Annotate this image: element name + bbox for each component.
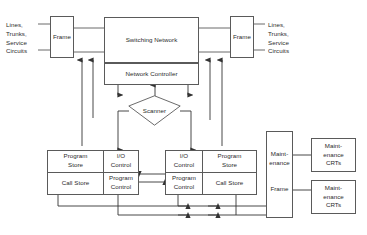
- maintenance-frame: Maint- enance Frame: [266, 131, 293, 218]
- maintenance-crt-top: Maint- enance CRTs: [311, 138, 356, 172]
- scanner: Scanner: [128, 95, 181, 126]
- right-processor-block: I/O Control Program Store Program Contro…: [165, 150, 257, 195]
- maintenance-crt-bottom: Maint- enance CRTs: [311, 180, 356, 214]
- left-io-control: I/O Control: [104, 151, 138, 173]
- left-program-control: Program Control: [104, 173, 138, 195]
- right-io-control: I/O Control: [166, 151, 203, 173]
- left-processor-block: Program Store I/O Control Call Store Pro…: [47, 150, 139, 195]
- wire-scanner-io-right: [180, 111, 191, 150]
- left-terminal-label: Lines, Trunks, Service Circuits: [6, 21, 38, 56]
- switching-network: Switching Network: [104, 17, 199, 63]
- block-diagram: Lines, Trunks, Service Circuits Lines, T…: [0, 0, 367, 235]
- right-call-store: Call Store: [203, 173, 256, 195]
- left-program-store: Program Store: [48, 151, 104, 173]
- frame-left: Frame: [50, 16, 74, 58]
- maintenance-frame-bottom-label: Frame: [267, 185, 292, 194]
- scanner-label: Scanner: [128, 95, 181, 133]
- left-call-store: Call Store: [48, 173, 104, 195]
- right-program-store: Program Store: [203, 151, 256, 173]
- right-program-control: Program Control: [166, 173, 203, 195]
- maintenance-frame-top-label: Maint- enance: [267, 150, 292, 168]
- network-controller: Network Controller: [104, 63, 199, 85]
- frame-right: Frame: [230, 16, 254, 58]
- right-terminal-label: Lines, Trunks, Service Circuits: [268, 21, 308, 56]
